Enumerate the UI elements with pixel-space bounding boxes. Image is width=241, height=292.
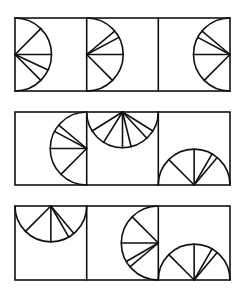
radius-ray [87,31,115,54]
radius-ray [169,160,194,185]
row-2 [15,112,230,185]
radius-ray [169,255,194,280]
semicircle-rays-puzzle-figure [0,0,241,292]
cell-1-1 [15,18,52,91]
radius-ray [87,37,119,54]
diagram-canvas [0,0,241,292]
radius-ray [61,149,87,175]
radius-ray [59,125,87,148]
radius-ray [15,55,48,70]
radius-ray [132,217,158,243]
cell-2-3 [158,149,230,185]
radius-ray [51,206,69,237]
radius-ray [15,55,41,81]
radius-ray [15,29,41,55]
radius-ray [126,243,158,262]
cell-2-2 [87,112,159,148]
row-1 [15,18,230,91]
radius-ray [198,37,230,54]
cell-1-2 [87,18,124,91]
radius-ray [92,112,122,131]
cell-3-2 [121,206,158,280]
cell-3-3 [158,244,230,280]
radius-ray [194,158,217,185]
radius-ray [194,154,212,185]
cell-1-3 [194,18,231,91]
radius-ray [194,253,217,280]
radius-ray [194,249,212,280]
radius-ray [51,206,74,233]
row-3 [15,206,230,280]
radius-ray [104,112,123,142]
radius-ray [130,243,158,267]
radius-ray [54,131,86,148]
radius-ray [202,31,230,54]
cell-3-1 [15,206,87,242]
radius-ray [204,55,230,81]
cell-2-1 [50,112,86,185]
radius-ray [26,206,51,231]
radius-ray [87,55,113,81]
